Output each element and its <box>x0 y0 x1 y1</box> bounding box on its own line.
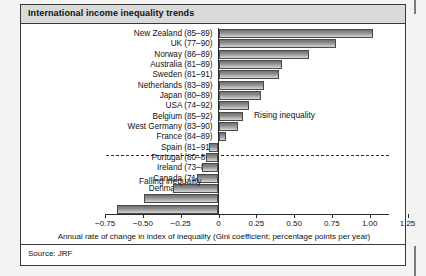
source-separator <box>21 244 405 245</box>
annotation-rising-inequality: Rising inequality <box>254 110 315 120</box>
source-label: Source: JRF <box>28 249 72 258</box>
x-axis-tick <box>219 214 220 218</box>
bar <box>219 39 337 48</box>
page-spine-mark-bottom <box>414 246 416 276</box>
category-label: Belgium (85–92) <box>21 111 217 122</box>
bar <box>117 205 218 214</box>
page-spine-mark-top <box>414 0 416 14</box>
x-axis-tick <box>332 214 333 218</box>
bar <box>219 81 264 90</box>
x-axis-tick-label: 0.25 <box>249 219 265 228</box>
table-row: Italy (87–91) <box>21 204 407 216</box>
bar <box>144 194 218 203</box>
plot-area: New Zealand (85–89)UK (77–90)Norway (86–… <box>21 24 407 242</box>
bar <box>219 101 249 110</box>
bar <box>219 60 283 69</box>
x-axis-tick <box>256 214 257 218</box>
annotation-falling-inequality: Falling inequality <box>139 176 201 186</box>
x-axis-tick-label: 1.25 <box>400 219 416 228</box>
bar <box>219 91 261 100</box>
bar <box>219 70 279 79</box>
x-axis-tick <box>105 214 106 218</box>
bar <box>206 153 218 162</box>
x-axis-tick-label: −0.75 <box>95 219 115 228</box>
x-axis-title: Annual rate of change in index of inequa… <box>21 232 407 241</box>
x-axis-tick <box>143 214 144 218</box>
bar <box>219 122 239 131</box>
x-axis-tick <box>370 214 371 218</box>
figure-container: International income inequality trends N… <box>20 4 406 266</box>
bar <box>219 132 227 141</box>
x-axis-tick-label: 1.00 <box>362 219 378 228</box>
x-axis-tick <box>181 214 182 218</box>
bar <box>219 112 243 121</box>
x-axis-tick <box>408 214 409 218</box>
bar <box>219 29 373 38</box>
x-axis-tick-label: −0.25 <box>171 219 191 228</box>
bar <box>202 163 219 172</box>
x-axis-tick-label: 0.75 <box>324 219 340 228</box>
figure-title-bar: International income inequality trends <box>21 5 405 24</box>
figure-title: International income inequality trends <box>28 8 194 18</box>
x-axis-tick <box>294 214 295 218</box>
x-axis-tick-label: −0.50 <box>133 219 153 228</box>
bar <box>209 143 218 152</box>
x-axis-tick-label: 0 <box>216 219 220 228</box>
x-axis-tick-label: 0.50 <box>286 219 302 228</box>
bar <box>219 50 310 59</box>
